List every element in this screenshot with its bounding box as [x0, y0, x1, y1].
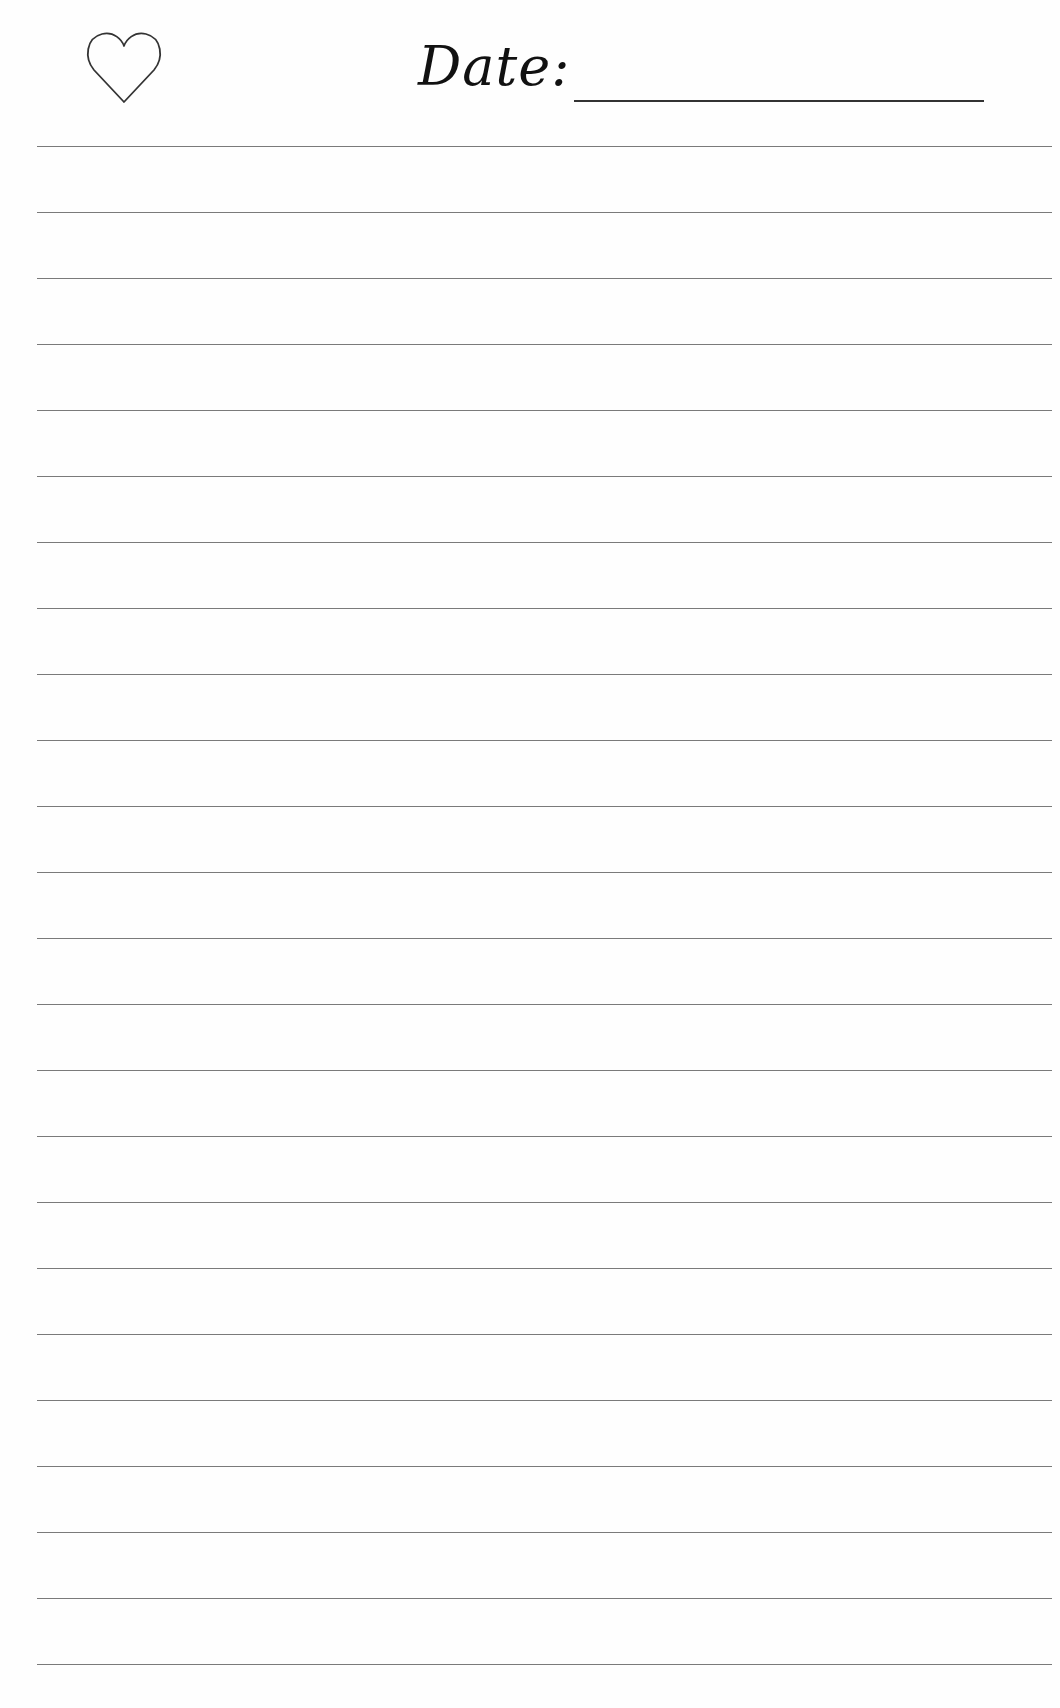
writing-line[interactable]	[37, 1202, 1052, 1203]
writing-line[interactable]	[37, 872, 1052, 873]
ruled-lines	[0, 0, 1060, 1708]
writing-line[interactable]	[37, 608, 1052, 609]
writing-line[interactable]	[37, 542, 1052, 543]
writing-line[interactable]	[37, 1004, 1052, 1005]
writing-line[interactable]	[37, 1598, 1052, 1599]
writing-line[interactable]	[37, 740, 1052, 741]
writing-line[interactable]	[37, 476, 1052, 477]
writing-line[interactable]	[37, 1136, 1052, 1137]
notebook-page: Date:	[0, 0, 1060, 1708]
writing-line[interactable]	[37, 278, 1052, 279]
writing-line[interactable]	[37, 1664, 1052, 1665]
writing-line[interactable]	[37, 806, 1052, 807]
writing-line[interactable]	[37, 344, 1052, 345]
writing-line[interactable]	[37, 1070, 1052, 1071]
writing-line[interactable]	[37, 1334, 1052, 1335]
writing-line[interactable]	[37, 1400, 1052, 1401]
writing-line[interactable]	[37, 1268, 1052, 1269]
writing-line[interactable]	[37, 674, 1052, 675]
writing-line[interactable]	[37, 1466, 1052, 1467]
writing-line[interactable]	[37, 938, 1052, 939]
writing-line[interactable]	[37, 410, 1052, 411]
writing-line[interactable]	[37, 212, 1052, 213]
writing-line[interactable]	[37, 146, 1052, 147]
writing-line[interactable]	[37, 1532, 1052, 1533]
